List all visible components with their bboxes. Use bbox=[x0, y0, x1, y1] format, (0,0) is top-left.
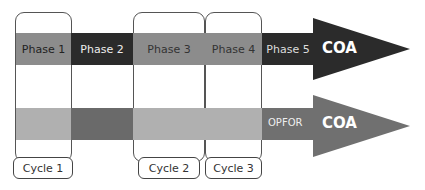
phase-4: Phase 4 bbox=[205, 33, 262, 65]
opfor-label: OPFOR bbox=[268, 117, 302, 128]
cycle-2-label: Cycle 2 bbox=[138, 157, 200, 179]
opfor-seg-1 bbox=[16, 108, 71, 140]
phase-3: Phase 3 bbox=[133, 33, 205, 65]
coa-label: COA bbox=[322, 39, 357, 57]
cycle-3-label: Cycle 3 bbox=[205, 157, 262, 179]
opfor-coa-label: COA bbox=[322, 114, 357, 132]
opfor-seg-3 bbox=[133, 108, 205, 140]
cycle-1-label: Cycle 1 bbox=[13, 157, 73, 179]
phase-1: Phase 1 bbox=[16, 33, 71, 65]
phase-5: Phase 5 bbox=[262, 33, 314, 65]
opfor-seg-4 bbox=[205, 108, 262, 140]
opfor-seg-2 bbox=[71, 108, 133, 140]
phase-2: Phase 2 bbox=[71, 33, 133, 65]
